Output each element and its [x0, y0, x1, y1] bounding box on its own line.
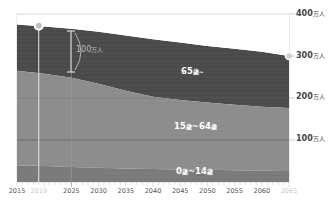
y-tick-100: 100万人 — [296, 134, 325, 144]
x-tick-2025: 2025 — [56, 187, 86, 195]
y-axis-ticks — [289, 14, 295, 140]
x-tick-2065: 2065 — [274, 187, 304, 195]
label-65-plus: 65歳~ — [181, 66, 204, 76]
y-tick-300: 300万人 — [296, 51, 325, 61]
x-tick-2050: 2050 — [192, 187, 222, 195]
population-area-chart: 400万人 300万人 200万人 100万人 65歳~ 15歳~64歳 0歳~… — [0, 0, 335, 206]
label-15-64: 15歳~64歳 — [174, 121, 217, 131]
x-tick-2040: 2040 — [138, 187, 168, 195]
bracket-label: 100万人 — [76, 45, 103, 54]
x-tick-2030: 2030 — [84, 187, 114, 195]
y-tick-200: 200万人 — [296, 92, 325, 102]
y-tick-400: 400万人 — [296, 9, 325, 19]
current-year-marker[interactable] — [35, 22, 43, 30]
x-tick-2055: 2055 — [220, 187, 250, 195]
x-tick-2045: 2045 — [165, 187, 195, 195]
x-tick-2019: 2019 — [24, 187, 54, 195]
chart-svg — [0, 0, 335, 206]
x-tick-2035: 2035 — [111, 187, 141, 195]
label-0-14: 0歳~14歳 — [176, 166, 213, 176]
x-tick-2060: 2060 — [247, 187, 277, 195]
